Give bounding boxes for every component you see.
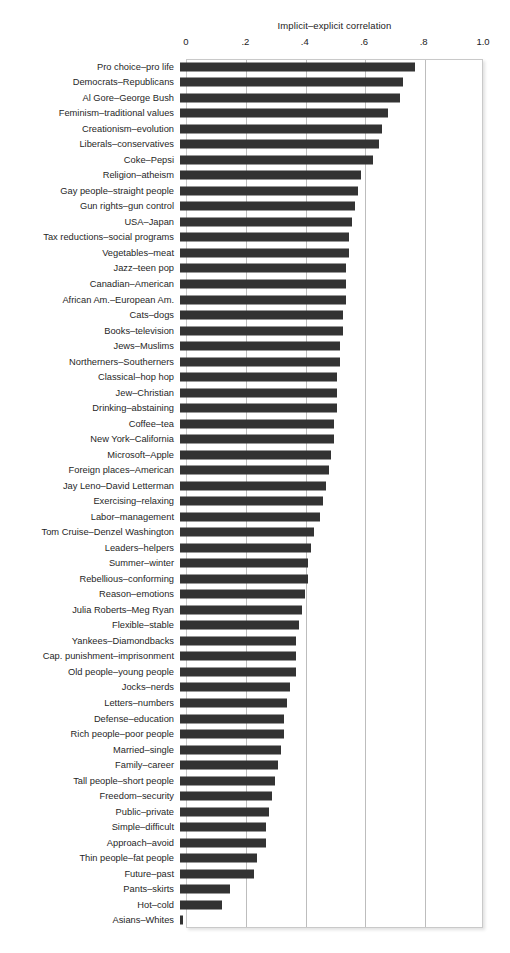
bar-track [180, 416, 477, 432]
bar-track [180, 323, 477, 339]
bar-track [180, 509, 477, 525]
bar-track [180, 881, 477, 897]
bar-category-label: Religion–atheism [0, 170, 180, 180]
bar-category-label: Feminism–traditional values [0, 108, 180, 118]
bar-category-label: Al Gore–George Bush [0, 93, 180, 103]
bar-row: Julia Roberts–Meg Ryan [0, 602, 510, 618]
bar-track [180, 168, 477, 184]
bar-row: Cap. punishment–imprisonment [0, 649, 510, 665]
bar-track [180, 230, 477, 246]
bar-row: Exercising–relaxing [0, 494, 510, 510]
bar-category-label: Tom Cruise–Denzel Washington [0, 527, 180, 537]
bar [180, 730, 284, 739]
bar-row: Rich people–poor people [0, 726, 510, 742]
implicit-explicit-correlation-chart: Implicit–explicit correlation 0.2.4.6.81… [0, 0, 510, 953]
bar-track [180, 602, 477, 618]
bar-row: Al Gore–George Bush [0, 90, 510, 106]
bar-category-label: Microsoft–Apple [0, 450, 180, 460]
bar-row: Tall people–short people [0, 773, 510, 789]
bar-row: Leaders–helpers [0, 540, 510, 556]
bar [180, 714, 284, 723]
bar-category-label: Reason–emotions [0, 589, 180, 599]
bar-track [180, 866, 477, 882]
bar-row: Foreign places–American [0, 462, 510, 478]
bar-category-label: Gun rights–gun control [0, 201, 180, 211]
bar-track [180, 649, 477, 665]
bar-category-label: Rebellious–conforming [0, 574, 180, 584]
bar-category-label: Future–past [0, 869, 180, 879]
bar-row: Asians–Whites [0, 912, 510, 928]
bar-row: Gun rights–gun control [0, 199, 510, 215]
bar [180, 528, 314, 537]
x-tick-label: .4 [301, 36, 309, 47]
bar-category-label: Asians–Whites [0, 915, 180, 925]
bar-track [180, 214, 477, 230]
x-tick-label: .6 [360, 36, 368, 47]
chart-axis-title: Implicit–explicit correlation [186, 20, 483, 31]
bar-track [180, 711, 477, 727]
bar [180, 171, 361, 180]
bar-category-label: Simple–difficult [0, 822, 180, 832]
bar-track [180, 261, 477, 277]
bar-track [180, 494, 477, 510]
bar-row: Family–career [0, 757, 510, 773]
bar-category-label: Cats–dogs [0, 310, 180, 320]
bar-category-label: Thin people–fat people [0, 853, 180, 863]
bar-track [180, 742, 477, 758]
bar-row: Defense–education [0, 711, 510, 727]
bar [180, 636, 296, 645]
bar-track [180, 835, 477, 851]
x-axis-tick-labels: 0.2.4.6.81.0 [0, 36, 510, 50]
bar [180, 342, 340, 351]
bar-row: Jew–Christian [0, 385, 510, 401]
bar-category-label: Pants–skirts [0, 884, 180, 894]
bar-track [180, 788, 477, 804]
bar-track [180, 90, 477, 106]
bar-row: Public–private [0, 804, 510, 820]
bar [180, 186, 358, 195]
bar [180, 885, 230, 894]
bar-row: Northerners–Southerners [0, 354, 510, 370]
bar-row: Cats–dogs [0, 307, 510, 323]
bar-row: Jews–Muslims [0, 338, 510, 354]
bar-row: Jazz–teen pop [0, 261, 510, 277]
x-tick-label: .2 [241, 36, 249, 47]
bar-track [180, 183, 477, 199]
bar [180, 854, 257, 863]
bar-track [180, 695, 477, 711]
bar-row: Coke–Pepsi [0, 152, 510, 168]
bar-category-label: Canadian–American [0, 279, 180, 289]
bar-category-label: Yankees–Diamondbacks [0, 636, 180, 646]
bar-category-label: Cap. punishment–imprisonment [0, 651, 180, 661]
bar [180, 590, 305, 599]
bar [180, 202, 355, 211]
bar [180, 683, 290, 692]
bar-category-label: Defense–education [0, 714, 180, 724]
bar [180, 698, 287, 707]
bar-track [180, 385, 477, 401]
bar [180, 450, 331, 459]
bar-category-label: Liberals–conservatives [0, 139, 180, 149]
bar [180, 745, 281, 754]
bar-category-label: Jew–Christian [0, 388, 180, 398]
bar-category-label: Classical–hop hop [0, 372, 180, 382]
bar [180, 823, 266, 832]
bar [180, 543, 311, 552]
bar-track [180, 773, 477, 789]
bar-category-label: Gay people–straight people [0, 186, 180, 196]
bar-category-label: African Am.–European Am. [0, 295, 180, 305]
bar-category-label: Labor–management [0, 512, 180, 522]
bar-row: Pro choice–pro life [0, 59, 510, 75]
bar-row: Vegetables–meat [0, 245, 510, 261]
bar [180, 264, 346, 273]
bar [180, 621, 299, 630]
bar [180, 311, 343, 320]
bar [180, 869, 254, 878]
bar [180, 776, 275, 785]
bar-category-label: Married–single [0, 745, 180, 755]
bar-row: Simple–difficult [0, 819, 510, 835]
bar-row: Microsoft–Apple [0, 447, 510, 463]
bar [180, 248, 349, 257]
bar-category-label: Public–private [0, 807, 180, 817]
bar-category-label: Jews–Muslims [0, 341, 180, 351]
